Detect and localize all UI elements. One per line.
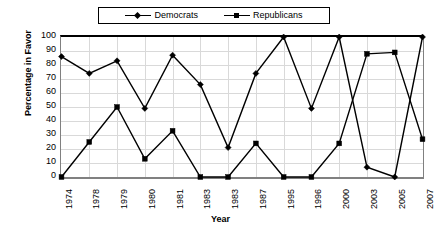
square-marker-icon <box>224 11 250 20</box>
data-point-diamond <box>336 34 342 40</box>
data-point-square <box>392 50 397 55</box>
x-axis-tick-label: 2005 <box>398 189 407 209</box>
diamond-marker-icon <box>125 11 151 20</box>
data-point-square <box>87 140 92 145</box>
legend-label-republicans: Republicans <box>253 11 303 20</box>
y-axis-tick-label: 30 <box>30 129 56 138</box>
data-point-diamond <box>114 58 120 64</box>
data-point-square <box>115 105 120 110</box>
data-point-diamond <box>225 145 231 151</box>
data-point-square <box>170 128 175 133</box>
legend-entry-republicans[interactable]: Republicans <box>224 11 303 20</box>
x-axis-tick-label: 1983 <box>231 189 240 209</box>
legend-entry-democrats[interactable]: Democrats <box>125 11 198 20</box>
x-axis-tick-label: 1995 <box>287 189 296 209</box>
x-axis-tick-label: 1979 <box>120 189 129 209</box>
y-axis-tick-label: 100 <box>30 31 56 40</box>
y-axis-tick-label: 20 <box>30 143 56 152</box>
chart-legend: Democrats Republicans <box>98 7 330 24</box>
y-axis-tick-label: 50 <box>30 101 56 110</box>
x-axis-tick-label: 1981 <box>176 189 185 209</box>
data-point-diamond <box>142 105 148 111</box>
series-line <box>62 52 423 177</box>
legend-label-democrats: Democrats <box>154 11 198 20</box>
y-axis-tick-label: 0 <box>30 171 56 180</box>
data-point-square <box>253 141 258 146</box>
x-axis-tick-label: 1980 <box>148 189 157 209</box>
y-axis-tick-label: 80 <box>30 59 56 68</box>
data-point-square <box>365 51 370 56</box>
y-axis-tick-label: 90 <box>30 45 56 54</box>
data-point-diamond <box>308 105 314 111</box>
x-axis-tick-label: 2000 <box>342 189 351 209</box>
data-point-diamond <box>364 164 370 170</box>
data-point-diamond <box>86 70 92 76</box>
data-point-square <box>337 141 342 146</box>
y-axis-tick-label: 70 <box>30 73 56 82</box>
y-axis-tick-label: 40 <box>30 115 56 124</box>
x-axis-tick-label: 1996 <box>314 189 323 209</box>
series-layer <box>61 37 423 177</box>
x-axis-tick-label: 1974 <box>65 189 74 209</box>
plot-area <box>60 35 424 179</box>
y-axis-tick-labels: 0102030405060708090100 <box>28 35 56 175</box>
line-chart: Democrats Republicans Percentage in Favo… <box>0 0 441 231</box>
data-point-square <box>142 156 147 161</box>
x-axis-title: Year <box>0 214 441 224</box>
series-democrats <box>59 34 426 180</box>
data-point-diamond <box>59 54 65 60</box>
series-republicans <box>59 50 425 179</box>
x-axis-tick-label: 1987 <box>259 189 268 209</box>
data-point-square <box>420 137 425 142</box>
x-axis-tick-label: 2003 <box>370 189 379 209</box>
x-axis-tick-labels: 1974197819791980198119831983198719951996… <box>60 179 422 219</box>
x-axis-tick-label: 1978 <box>92 189 101 209</box>
y-axis-tick-label: 60 <box>30 87 56 96</box>
x-axis-tick-label: 2007 <box>426 189 435 209</box>
y-axis-tick-label: 10 <box>30 157 56 166</box>
x-axis-tick-label: 1983 <box>203 189 212 209</box>
data-point-diamond <box>420 34 426 40</box>
